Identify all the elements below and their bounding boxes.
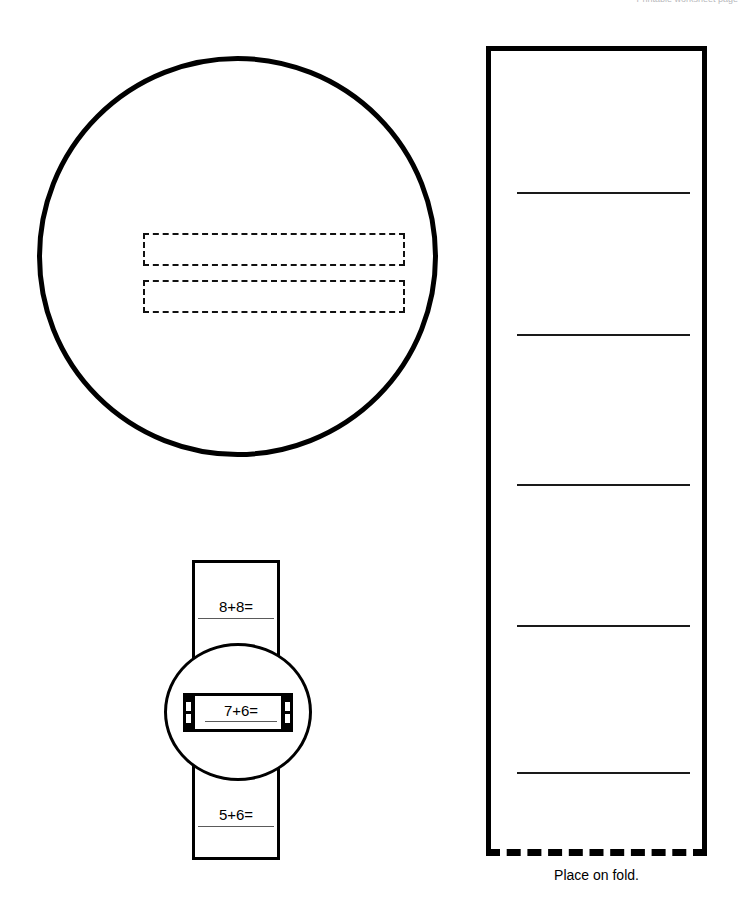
slot-clip-left-notch-top bbox=[186, 702, 191, 711]
fold-page-border bbox=[486, 46, 707, 856]
header-strip: Printable worksheet page bbox=[0, 0, 742, 7]
slot-clip-left-icon bbox=[186, 696, 195, 729]
strip-problem-top-answer-line bbox=[198, 618, 274, 619]
header-note-text: Printable worksheet page bbox=[508, 0, 738, 5]
fold-page-rule-4 bbox=[517, 625, 690, 627]
fold-page-rule-1 bbox=[517, 192, 690, 194]
slot-clip-right-notch-top bbox=[285, 702, 290, 711]
slot-clip-right-notch-bottom bbox=[285, 714, 290, 723]
strip-problem-bottom-answer-line bbox=[198, 826, 274, 827]
strip-problem-top-text: 8+8= bbox=[219, 598, 253, 615]
fold-page-caption: Place on fold. bbox=[486, 866, 707, 884]
strip-wheel-assembly: 8+8= 7+6= 5+6= bbox=[160, 555, 320, 860]
wheel-slot: 7+6= bbox=[183, 693, 293, 732]
strip-problem-top: 8+8= bbox=[195, 597, 277, 619]
slot-problem: 7+6= bbox=[199, 701, 283, 722]
strip-problem-bottom: 5+6= bbox=[195, 805, 277, 827]
fold-page-rule-2 bbox=[517, 334, 690, 336]
slot-clip-left-notch-bottom bbox=[186, 714, 191, 723]
dashed-slot-2 bbox=[143, 280, 405, 313]
slot-problem-text: 7+6= bbox=[224, 702, 258, 719]
fold-page-rule-3 bbox=[517, 484, 690, 486]
slot-problem-answer-line bbox=[205, 721, 277, 722]
dashed-slot-1 bbox=[143, 233, 405, 266]
fold-line-dashed-edge bbox=[486, 849, 707, 856]
fold-page bbox=[486, 46, 707, 856]
cover-circle bbox=[37, 56, 438, 457]
fold-page-rule-5 bbox=[517, 772, 690, 774]
strip-problem-bottom-text: 5+6= bbox=[219, 806, 253, 823]
